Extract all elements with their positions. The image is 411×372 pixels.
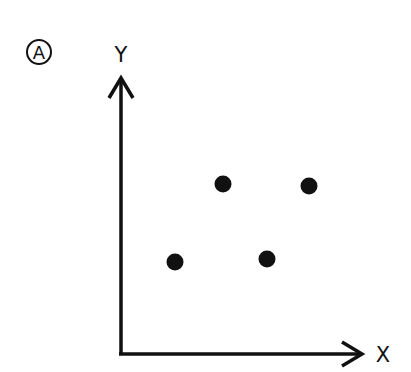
x-axis: X <box>119 342 390 367</box>
data-point <box>301 178 318 195</box>
scatter-diagram: A Y X <box>0 0 411 372</box>
data-point <box>167 254 184 271</box>
data-points <box>167 176 318 271</box>
panel-label: A <box>27 40 51 64</box>
y-axis: Y <box>109 43 133 354</box>
data-point <box>259 251 276 268</box>
svg-text:A: A <box>33 42 46 63</box>
y-axis-label: Y <box>114 43 128 67</box>
data-point <box>215 176 232 193</box>
x-axis-label: X <box>376 343 390 367</box>
